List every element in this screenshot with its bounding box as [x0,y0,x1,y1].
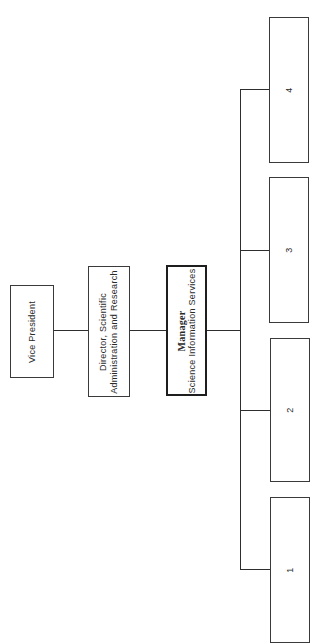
connector-box-3 [240,250,270,251]
subordinate-box-1: 1 [270,497,310,643]
subordinate-box-3: 3 [269,177,309,323]
subordinate-box-2: 2 [270,338,310,482]
subordinate-label-1: 1 [285,567,296,572]
connector-box-1 [240,569,270,570]
director-label: Director, Scientific Administration and … [98,270,120,394]
subordinate-label-3: 3 [284,247,295,252]
connector-director-manager [130,330,166,331]
subordinate-label-2: 2 [285,407,296,412]
subordinate-spine [240,89,241,570]
connector-box-2 [240,410,270,411]
connector-vp-director [54,330,88,331]
director-label-line1: Director, Scientific [98,270,109,394]
manager-title: Manager [176,268,187,393]
subordinate-label-4: 4 [284,87,295,92]
connector-box-4 [240,89,270,90]
manager-box: Manager Science Information Services [166,265,207,396]
manager-subtitle: Science Information Services [187,268,198,393]
vice-president-box: Vice President [10,285,54,378]
subordinate-box-4: 4 [269,17,309,163]
connector-manager-spine [207,330,241,331]
vice-president-label: Vice President [27,300,38,362]
manager-label: Manager Science Information Services [176,268,198,393]
director-label-line2: Administration and Research [109,270,120,394]
director-box: Director, Scientific Administration and … [88,266,130,397]
